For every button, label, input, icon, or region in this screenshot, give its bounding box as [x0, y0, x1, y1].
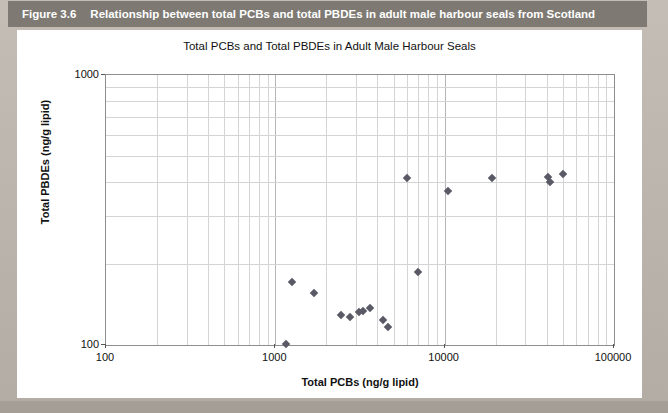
data-point [414, 268, 422, 276]
x-gridline-minor [407, 75, 408, 345]
x-gridline-minor [606, 75, 607, 345]
x-tick-label: 100 [96, 351, 114, 363]
y-tick-mark [101, 74, 105, 75]
x-gridline-minor [598, 75, 599, 345]
y-gridline-minor [106, 216, 614, 217]
x-gridline-minor [547, 75, 548, 345]
x-tick-mark [105, 344, 106, 348]
page-background: Figure 3.6 Relationship between total PC… [0, 0, 668, 413]
x-gridline-minor [208, 75, 209, 345]
x-gridline-minor [394, 75, 395, 345]
y-gridline-minor [106, 117, 614, 118]
x-gridline-minor [326, 75, 327, 345]
x-tick-mark [444, 344, 445, 348]
x-gridline-minor [563, 75, 564, 345]
y-tick-mark [101, 344, 105, 345]
y-gridline-minor [106, 101, 614, 102]
x-tick-mark [274, 344, 275, 348]
x-gridline-minor [428, 75, 429, 345]
figure-caption-bar: Figure 3.6 Relationship between total PC… [8, 1, 647, 27]
x-gridline-minor [187, 75, 188, 345]
y-gridline-minor [106, 135, 614, 136]
x-tick-mark [613, 344, 614, 348]
x-gridline-major [445, 75, 446, 345]
x-gridline-minor [238, 75, 239, 345]
chart-panel: Total PCBs and Total PBDEs in Adult Male… [17, 30, 642, 398]
x-tick-label: 10000 [428, 351, 459, 363]
data-point [383, 322, 391, 330]
y-tick-label: 1000 [65, 68, 99, 80]
data-point [281, 340, 289, 348]
x-gridline-minor [356, 75, 357, 345]
x-gridline-minor [224, 75, 225, 345]
x-gridline-minor [249, 75, 250, 345]
y-gridline-minor [106, 87, 614, 88]
x-gridline-minor [268, 75, 269, 345]
page-bottom-strip [0, 401, 668, 413]
y-gridline-minor [106, 182, 614, 183]
x-axis-title: Total PCBs (ng/g lipid) [105, 376, 615, 388]
x-gridline-major [275, 75, 276, 345]
data-point [559, 170, 567, 178]
data-point [337, 311, 345, 319]
y-tick-label: 100 [65, 338, 99, 350]
x-gridline-minor [496, 75, 497, 345]
figure-number: Figure 3.6 [22, 8, 76, 20]
x-gridline-minor [525, 75, 526, 345]
y-gridline-minor [106, 156, 614, 157]
chart-title: Total PCBs and Total PBDEs in Adult Male… [17, 40, 642, 52]
x-gridline-minor [377, 75, 378, 345]
x-gridline-minor [576, 75, 577, 345]
x-gridline-minor [418, 75, 419, 345]
plot-area [105, 74, 615, 346]
x-gridline-minor [437, 75, 438, 345]
x-tick-label: 100000 [595, 351, 632, 363]
x-gridline-minor [157, 75, 158, 345]
y-gridline-minor [106, 264, 614, 265]
data-point [287, 278, 295, 286]
data-point [345, 313, 353, 321]
x-gridline-minor [588, 75, 589, 345]
y-axis-title: Total PBDEs (ng/g lipid) [39, 72, 51, 252]
x-gridline-minor [259, 75, 260, 345]
figure-caption-text: Relationship between total PCBs and tota… [90, 8, 595, 20]
data-point [403, 174, 411, 182]
data-point [310, 289, 318, 297]
data-point [378, 316, 386, 324]
x-tick-label: 1000 [262, 351, 286, 363]
